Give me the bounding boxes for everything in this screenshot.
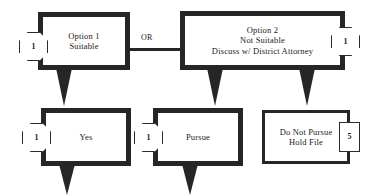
node-option2[interactable]: Option 2 Not Suitable Discuss w/ Distric… bbox=[180, 11, 345, 70]
node-yes[interactable]: Yes bbox=[41, 108, 131, 166]
arrow-option2-to-do-not-pursue bbox=[297, 68, 317, 108]
node-pursue[interactable]: Pursue bbox=[153, 108, 243, 166]
badge-pursue-octagon[interactable]: 1 bbox=[134, 123, 163, 152]
badge-option1-value: 1 bbox=[32, 43, 36, 51]
badge-do-not-pursue-tag[interactable]: 5 bbox=[339, 122, 360, 152]
or-label: OR bbox=[139, 33, 155, 42]
badge-yes-value: 1 bbox=[35, 134, 39, 142]
flowchart-canvas: OR Option 1 Suitable 1 Option 2 Not Suit… bbox=[0, 0, 379, 196]
node-do-not-pursue-label: Do Not Pursue Hold File bbox=[278, 127, 335, 148]
arrow-yes-exit bbox=[57, 164, 77, 196]
node-pursue-label: Pursue bbox=[184, 132, 212, 142]
badge-option2-value: 1 bbox=[344, 38, 348, 46]
arrow-pursue-exit bbox=[180, 164, 200, 196]
node-option2-label: Option 2 Not Suitable Discuss w/ Distric… bbox=[210, 25, 315, 56]
badge-do-not-pursue-value: 5 bbox=[348, 133, 352, 141]
badge-option2-octagon[interactable]: 1 bbox=[331, 27, 360, 56]
arrow-option2-to-pursue bbox=[205, 68, 225, 108]
node-yes-label: Yes bbox=[78, 132, 95, 142]
badge-pursue-value: 1 bbox=[147, 134, 151, 142]
node-option1[interactable]: Option 1 Suitable bbox=[38, 12, 130, 70]
node-do-not-pursue[interactable]: Do Not Pursue Hold File bbox=[262, 110, 350, 164]
node-option1-label: Option 1 Suitable bbox=[66, 31, 101, 52]
arrow-option1-to-yes bbox=[54, 68, 74, 108]
connector-option1-to-option2 bbox=[128, 48, 180, 51]
